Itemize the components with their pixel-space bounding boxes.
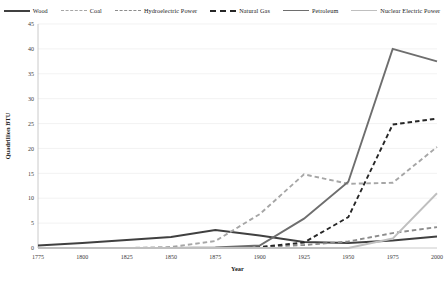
figure-caption	[4, 272, 440, 284]
y-tick-label: 25	[28, 121, 34, 127]
x-tick-label: 1850	[165, 254, 177, 260]
x-tick-label: 1975	[387, 254, 399, 260]
y-tick-label: 40	[28, 46, 34, 52]
x-tick-label: 2000	[431, 254, 443, 260]
x-axis-title: Year	[231, 265, 244, 272]
y-axis-ticks: 051015202530354045	[28, 21, 34, 251]
y-axis-title: Quadrillion BTU	[4, 112, 11, 159]
x-tick-label: 1950	[342, 254, 354, 260]
series-line-hydroelectric-power	[38, 227, 437, 248]
x-tick-label: 1875	[209, 254, 221, 260]
chart-canvas: 051015202530354045 177518001825185018751…	[0, 0, 444, 284]
energy-consumption-chart: WoodCoalHydroelectric PowerNatural GasPe…	[0, 0, 444, 284]
x-tick-label: 1800	[76, 254, 88, 260]
y-tick-label: 10	[28, 195, 34, 201]
y-tick-label: 15	[28, 171, 34, 177]
y-tick-label: 30	[28, 96, 34, 102]
x-tick-label: 1775	[32, 254, 44, 260]
y-tick-label: 45	[28, 21, 34, 27]
gridlines	[38, 24, 437, 248]
series-line-nuclear-electric-power	[38, 193, 437, 248]
y-tick-label: 20	[28, 146, 34, 152]
y-tick-label: 35	[28, 71, 34, 77]
x-tick-label: 1825	[121, 254, 133, 260]
x-tick-label: 1925	[298, 254, 310, 260]
x-tick-label: 1900	[254, 254, 266, 260]
series-line-wood	[38, 230, 437, 245]
x-axis-ticks: 1775180018251850187519001925195019752000	[32, 254, 443, 260]
y-tick-label: 5	[31, 220, 34, 226]
y-tick-label: 0	[31, 245, 34, 251]
